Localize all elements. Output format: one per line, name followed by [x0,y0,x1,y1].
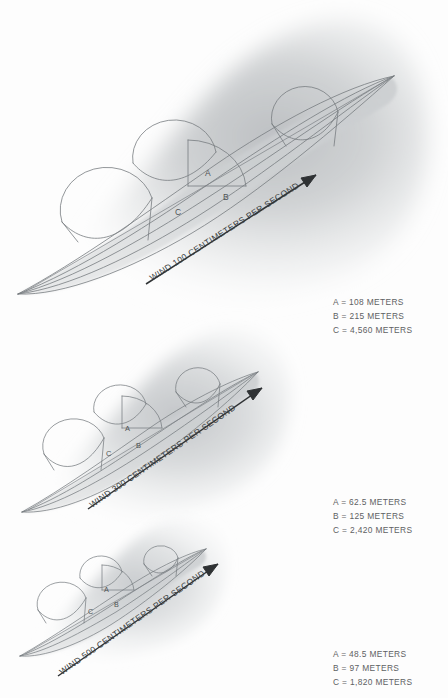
panel-2-legend-line-c: C = 2,420 METERS [333,523,412,537]
panel-3-label-a: A [104,585,109,594]
panel-2-legend-line-b: B = 125 METERS [333,509,412,523]
panel-3-label-c: C [88,607,93,616]
panel-2-legend: A = 62.5 METERS B = 125 METERS C = 2,420… [333,495,412,537]
panel-1-plume: A B C WIND 100 CENTIMETERS PER SECOND [18,19,428,311]
panel-2-legend-line-a: A = 62.5 METERS [333,495,412,509]
panel-1-legend-line-c: C = 4,560 METERS [333,323,412,337]
panel-1-legend-line-b: B = 215 METERS [333,309,412,323]
panel-2-label-b: B [136,441,141,450]
panel-1-label-a: A [205,168,211,178]
panel-1-label-c: C [175,207,181,217]
panel-1-legend-line-a: A = 108 METERS [333,295,412,309]
panel-3-legend-line-a: A = 48.5 METERS [333,647,412,661]
panel-1-legend: A = 108 METERS B = 215 METERS C = 4,560 … [333,295,412,337]
plume-diagram-canvas: A B C WIND 100 CENTIMETERS PER SECOND [0,0,448,698]
panel-3-legend-line-b: B = 97 METERS [333,661,412,675]
panel-3-legend: A = 48.5 METERS B = 97 METERS C = 1,820 … [333,647,412,689]
diagram-stage: A B C WIND 100 CENTIMETERS PER SECOND [0,0,448,698]
panel-2-label-a: A [125,424,130,433]
panel-2-label-c: C [106,449,112,458]
panel-1-label-b: B [223,192,229,202]
panel-3-plume: A B C WIND 500 CENTIMETERS PER SECOND [20,516,228,677]
panel-3-legend-line-c: C = 1,820 METERS [333,675,412,689]
panel-3-label-b: B [114,600,119,609]
panel-2-plume: A B C WIND 300 CENTIMETERS PER SECOND [22,328,291,522]
